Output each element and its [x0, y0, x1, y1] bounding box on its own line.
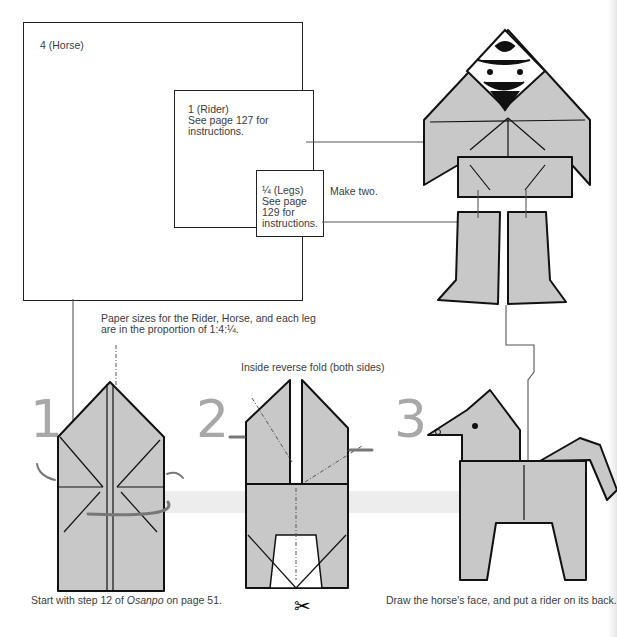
- rider-figure: [424, 30, 590, 304]
- step-3-horse: [428, 390, 617, 580]
- step-1-model: [37, 382, 183, 591]
- scissors-icon: ✂: [294, 595, 311, 617]
- illustrations: ✂: [0, 0, 617, 637]
- step-2-model: [230, 380, 372, 588]
